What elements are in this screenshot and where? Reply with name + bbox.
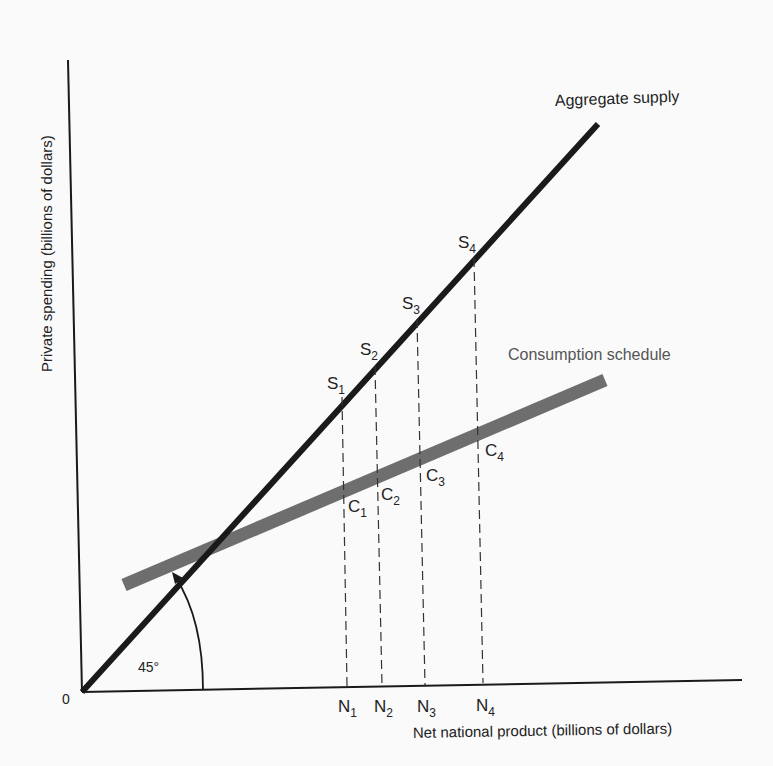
svg-text:N2: N2 [374,697,393,720]
dashed-line-n3 [417,319,425,685]
origin-label: 0 [62,691,70,707]
angle-label: 45° [138,659,159,675]
consumption-schedule-line [124,380,605,585]
svg-text:S3: S3 [402,294,420,317]
svg-text:C2: C2 [381,485,400,508]
consumption-schedule-label: Consumption schedule [508,346,671,363]
angle-arc [176,578,203,690]
dashed-guides [342,258,483,686]
s1-label: S1 [327,374,345,397]
svg-text:N4: N4 [476,696,495,719]
y-axis-label: Private spending (billions of dollars) [38,135,55,372]
y-axis [68,60,82,692]
s2-label: S2 [360,340,378,363]
n3-label: N3 [417,697,436,720]
n4-label: N4 [476,696,495,719]
svg-text:S2: S2 [360,340,378,363]
svg-text:S4: S4 [458,233,476,256]
x-axis [82,680,742,692]
dashed-line-n4 [474,258,483,683]
c3-label: C3 [426,466,445,489]
s4-label: S4 [458,233,476,256]
diagram-canvas: 45° 0 Aggregate supply Consumption sched… [0,0,773,766]
dashed-line-n1 [342,397,347,686]
svg-text:S1: S1 [327,374,345,397]
svg-text:C4: C4 [485,441,504,464]
dashed-line-n2 [375,366,382,685]
aggregate-supply-label: Aggregate supply [555,88,680,109]
n2-label: N2 [374,697,393,720]
aggregate-supply-line [82,124,598,692]
svg-text:N3: N3 [417,697,436,720]
svg-text:C3: C3 [426,466,445,489]
svg-text:N1: N1 [338,697,357,720]
s3-label: S3 [402,294,420,317]
x-axis-label: Net national product (billions of dollar… [413,719,673,741]
c4-label: C4 [485,441,504,464]
svg-text:C1: C1 [348,497,367,520]
c1-label: C1 [348,497,367,520]
c2-label: C2 [381,485,400,508]
n1-label: N1 [338,697,357,720]
